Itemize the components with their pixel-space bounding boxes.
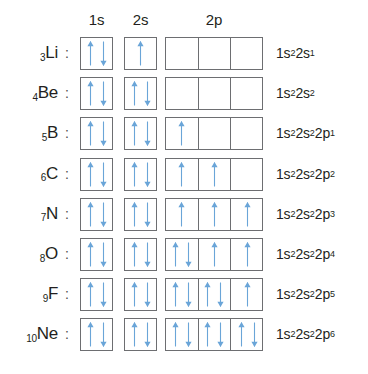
atomic-number: 10: [26, 333, 37, 344]
spin-group: [166, 199, 198, 230]
orbital-box-2p-3: [231, 279, 264, 310]
down-arrow-icon: [143, 201, 152, 228]
orbital-box-2p-1: [166, 38, 199, 69]
orbital-box-2p-3: [231, 319, 264, 350]
down-arrow-icon: [143, 281, 152, 308]
orbital-box-2p-2: [199, 319, 232, 350]
up-arrow-icon: [86, 40, 95, 67]
spin-group: [199, 279, 231, 310]
spin-group: [125, 319, 156, 350]
orbital-box-2p-2: [199, 199, 232, 230]
column-header-2p: 2p: [165, 9, 263, 31]
element-row: 8O:1s22s22p4: [0, 234, 368, 274]
label-separator: :: [62, 194, 72, 234]
spin-group: [81, 199, 112, 230]
atomic-number: 9: [43, 293, 48, 304]
orbital-box-group-2p: [165, 318, 263, 351]
up-arrow-icon: [86, 201, 95, 228]
spin-group: [125, 38, 156, 69]
down-arrow-icon: [99, 80, 108, 107]
spin-group: [231, 319, 264, 350]
orbital-box-1s: [80, 158, 113, 191]
electron-configuration: 1s22s22p4: [276, 234, 368, 274]
atomic-number: 5: [42, 132, 47, 143]
down-arrow-icon: [99, 120, 108, 147]
orbital-box-2p-1: [166, 319, 199, 350]
orbital-box-2p-3: [231, 118, 264, 149]
down-arrow-icon: [99, 321, 108, 348]
orbital-box-2p-2: [199, 38, 232, 69]
label-separator: :: [62, 314, 72, 354]
spin-group: [81, 38, 112, 69]
element-row: 4Be:1s22s2: [0, 73, 368, 113]
up-arrow-icon: [210, 241, 219, 268]
up-arrow-icon: [130, 161, 139, 188]
electron-configuration: 1s22s2: [276, 73, 368, 113]
up-arrow-icon: [177, 201, 186, 228]
up-arrow-icon: [130, 80, 139, 107]
element-symbol: N: [46, 204, 58, 224]
column-header-row: 1s 2s 2p: [0, 9, 368, 31]
up-arrow-icon: [130, 120, 139, 147]
element-symbol: B: [47, 123, 58, 143]
element-row: 9F:1s22s22p5: [0, 274, 368, 314]
up-arrow-icon: [86, 321, 95, 348]
up-arrow-icon: [171, 321, 180, 348]
up-arrow-icon: [243, 281, 252, 308]
up-arrow-icon: [86, 241, 95, 268]
down-arrow-icon: [99, 241, 108, 268]
spin-group: [125, 199, 156, 230]
element-label: 7N: [0, 194, 58, 234]
electron-configuration: 1s22s22p3: [276, 194, 368, 234]
element-symbol: F: [48, 284, 58, 304]
label-separator: :: [62, 154, 72, 194]
spin-group: [81, 78, 112, 109]
orbital-box-2s: [124, 117, 157, 150]
orbital-box-group-2p: [165, 158, 263, 191]
element-label: 4Be: [0, 73, 58, 113]
orbital-box-2s: [124, 238, 157, 271]
spin-group: [199, 239, 231, 270]
orbital-box-2p-2: [199, 78, 232, 109]
down-arrow-icon: [143, 120, 152, 147]
orbital-box-1s: [80, 278, 113, 311]
up-arrow-icon: [177, 120, 186, 147]
element-symbol: Be: [38, 83, 58, 103]
spin-group: [125, 239, 156, 270]
up-arrow-icon: [177, 161, 186, 188]
down-arrow-icon: [184, 321, 193, 348]
spin-group: [81, 239, 112, 270]
orbital-box-1s: [80, 198, 113, 231]
spin-group: [125, 159, 156, 190]
up-arrow-icon: [130, 281, 139, 308]
down-arrow-icon: [99, 40, 108, 67]
element-row: 10Ne:1s22s22p6: [0, 314, 368, 354]
up-arrow-icon: [210, 161, 219, 188]
orbital-box-2s: [124, 198, 157, 231]
up-arrow-icon: [130, 201, 139, 228]
down-arrow-icon: [99, 161, 108, 188]
down-arrow-icon: [216, 321, 225, 348]
spin-group: [81, 159, 112, 190]
down-arrow-icon: [99, 201, 108, 228]
up-arrow-icon: [203, 281, 212, 308]
up-arrow-icon: [171, 241, 180, 268]
orbital-box-2p-3: [231, 239, 264, 270]
orbital-box-1s: [80, 117, 113, 150]
down-arrow-icon: [184, 241, 193, 268]
electron-configuration: 1s22s1: [276, 33, 368, 73]
orbital-box-group-2p: [165, 198, 263, 231]
up-arrow-icon: [171, 281, 180, 308]
orbital-box-2p-3: [231, 38, 264, 69]
orbital-box-2s: [124, 278, 157, 311]
element-label: 10Ne: [0, 314, 58, 354]
up-arrow-icon: [210, 201, 219, 228]
orbital-box-2p-2: [199, 279, 232, 310]
up-arrow-icon: [237, 321, 246, 348]
down-arrow-icon: [216, 281, 225, 308]
element-label: 3Li: [0, 33, 58, 73]
spin-group: [166, 279, 198, 310]
spin-group: [199, 199, 231, 230]
element-symbol: Li: [45, 43, 58, 63]
orbital-box-2s: [124, 77, 157, 110]
